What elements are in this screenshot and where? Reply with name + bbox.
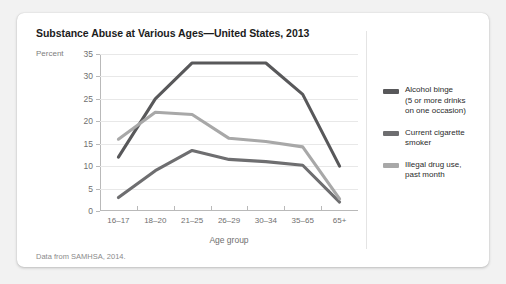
y-tick-label: 0 bbox=[88, 206, 93, 216]
source-note: Data from SAMHSA, 2014. bbox=[36, 252, 126, 261]
screenshot-root: Substance Abuse at Various Ages—United S… bbox=[0, 0, 506, 284]
x-tick-label: 30–34 bbox=[255, 216, 277, 225]
y-tick-label: 30 bbox=[84, 71, 93, 81]
series-line bbox=[118, 112, 339, 199]
legend-divider bbox=[366, 31, 367, 249]
y-tick-label: 15 bbox=[84, 139, 93, 149]
legend-swatch-icon bbox=[383, 163, 399, 168]
legend-item-label: Illegal drug use,past month bbox=[405, 160, 461, 181]
x-axis-title: Age group bbox=[100, 235, 358, 245]
x-tick-label: 35–65 bbox=[292, 216, 314, 225]
chart-card: Substance Abuse at Various Ages—United S… bbox=[17, 13, 489, 267]
series-lines bbox=[100, 54, 358, 211]
plot-area: 05101520253035 16–1718–2021–2526–2930–34… bbox=[100, 54, 358, 211]
chart-legend: Alcohol binge(5 or more drinkson one occ… bbox=[383, 85, 483, 192]
x-tick-label: 16–17 bbox=[107, 216, 129, 225]
legend-item-label: Alcohol binge(5 or more drinkson one occ… bbox=[405, 85, 466, 117]
y-tick-label: 20 bbox=[84, 116, 93, 126]
x-tick-label: 21–25 bbox=[181, 216, 203, 225]
y-tick-label: 25 bbox=[84, 94, 93, 104]
legend-item[interactable]: Current cigarettesmoker bbox=[383, 128, 483, 149]
y-tick-label: 10 bbox=[84, 161, 93, 171]
y-tick-mark bbox=[96, 211, 100, 212]
y-axis-title: Percent bbox=[36, 49, 64, 58]
legend-item[interactable]: Illegal drug use,past month bbox=[383, 160, 483, 181]
y-tick-label: 35 bbox=[84, 49, 93, 59]
legend-item-label: Current cigarettesmoker bbox=[405, 128, 465, 149]
x-tick-label: 18–20 bbox=[144, 216, 166, 225]
series-line bbox=[118, 150, 339, 202]
legend-item[interactable]: Alcohol binge(5 or more drinkson one occ… bbox=[383, 85, 483, 117]
x-tick-label: 26–29 bbox=[218, 216, 240, 225]
x-tick-label: 65+ bbox=[333, 216, 347, 225]
y-tick-label: 5 bbox=[88, 184, 93, 194]
page-title: Substance Abuse at Various Ages—United S… bbox=[36, 27, 309, 39]
legend-swatch-icon bbox=[383, 131, 399, 136]
legend-swatch-icon bbox=[383, 89, 399, 94]
